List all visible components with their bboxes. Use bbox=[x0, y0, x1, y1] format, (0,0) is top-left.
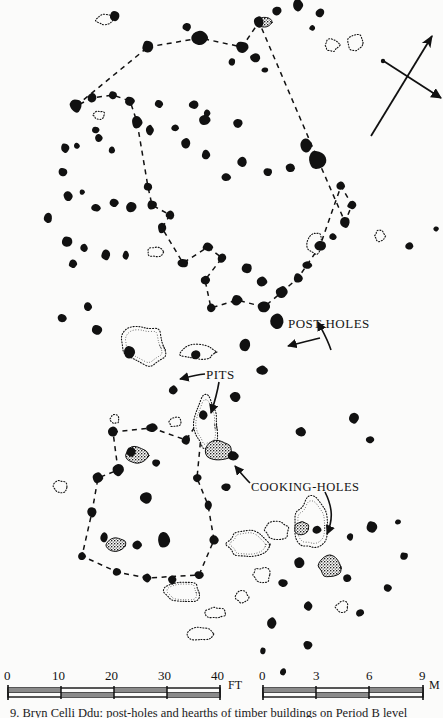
post-hole bbox=[261, 67, 268, 72]
post-hole bbox=[233, 119, 243, 128]
scale-feet-tick-20: 20 bbox=[105, 668, 118, 684]
post-hole bbox=[296, 427, 307, 436]
pit-outline bbox=[53, 481, 67, 493]
post-hole bbox=[80, 244, 88, 252]
post-hole bbox=[182, 435, 190, 444]
post-hole bbox=[267, 617, 277, 629]
post-hole bbox=[236, 42, 249, 53]
cooking-hole bbox=[106, 538, 126, 552]
post-hole bbox=[309, 151, 327, 169]
pit-outline bbox=[187, 627, 214, 640]
cooking-hole bbox=[318, 555, 341, 577]
pit-outline bbox=[253, 568, 270, 583]
post-hole bbox=[125, 97, 135, 106]
post-hole bbox=[366, 436, 375, 443]
post-hole bbox=[205, 501, 212, 510]
post-hole bbox=[101, 250, 110, 261]
post-hole bbox=[87, 507, 96, 517]
scale-metres-tick-3: 3 bbox=[313, 668, 320, 684]
post-hole bbox=[304, 601, 313, 610]
pit-outline bbox=[264, 521, 288, 539]
pit-outline bbox=[163, 582, 199, 601]
scale-feet-tick-0: 0 bbox=[4, 668, 11, 684]
post-hole bbox=[92, 325, 103, 335]
post-hole bbox=[367, 521, 378, 533]
post-hole bbox=[237, 157, 247, 167]
post-hole bbox=[189, 100, 199, 109]
post-hole bbox=[256, 366, 268, 375]
post-hole bbox=[263, 168, 272, 176]
north-arrow-crossbar bbox=[382, 60, 441, 98]
post-hole bbox=[181, 138, 190, 148]
post-hole bbox=[228, 451, 240, 460]
post-hole bbox=[201, 276, 211, 285]
north-arrow-crossbar-dot bbox=[381, 59, 385, 63]
post-hole bbox=[132, 116, 143, 129]
post-hole bbox=[302, 261, 312, 269]
post-hole bbox=[61, 143, 70, 153]
pit-outline bbox=[295, 496, 328, 548]
post-hole bbox=[400, 552, 408, 559]
post-hole bbox=[182, 23, 191, 31]
cooking-hole bbox=[205, 440, 231, 459]
post-hole bbox=[80, 189, 86, 194]
post-hole bbox=[62, 237, 73, 247]
post-hole bbox=[300, 138, 312, 152]
post-hole bbox=[152, 459, 160, 466]
post-hole bbox=[340, 217, 350, 228]
post-hole bbox=[146, 423, 158, 432]
post-hole bbox=[258, 301, 271, 312]
scale-bar-feet bbox=[8, 685, 220, 700]
post-holes-leader-left bbox=[288, 338, 320, 346]
post-hole bbox=[109, 91, 117, 99]
post-hole bbox=[158, 532, 170, 548]
pit-outline bbox=[235, 591, 249, 604]
post-hole bbox=[294, 557, 304, 568]
post-hole bbox=[347, 533, 353, 540]
pit-outline bbox=[205, 607, 226, 617]
post-hole bbox=[286, 164, 296, 172]
post-hole bbox=[44, 213, 52, 223]
post-hole bbox=[270, 313, 284, 329]
post-hole bbox=[257, 277, 268, 287]
post-hole bbox=[280, 668, 286, 675]
scale-metres-tick-6: 6 bbox=[366, 668, 373, 684]
post-hole bbox=[69, 259, 78, 268]
post-hole bbox=[146, 125, 154, 136]
post-hole bbox=[92, 127, 100, 134]
pit-outline bbox=[93, 111, 105, 119]
pits-leader-down bbox=[211, 382, 219, 413]
post-hole bbox=[74, 143, 80, 149]
post-hole bbox=[132, 540, 142, 549]
post-hole bbox=[100, 532, 108, 542]
scale-feet-unit: FT bbox=[228, 678, 242, 693]
post-hole bbox=[230, 392, 241, 402]
post-hole bbox=[199, 115, 211, 125]
pit-outline bbox=[226, 530, 270, 556]
cooking-hole bbox=[295, 522, 309, 535]
post-hole bbox=[142, 574, 152, 583]
post-hole bbox=[58, 314, 67, 322]
post-hole bbox=[239, 339, 250, 352]
pit-outline bbox=[148, 247, 164, 257]
scale-metres-tick-9: 9 bbox=[419, 668, 426, 684]
post-hole bbox=[395, 519, 401, 524]
post-hole bbox=[250, 53, 260, 62]
post-hole bbox=[329, 233, 337, 240]
pit-outline bbox=[325, 39, 340, 52]
post-hole bbox=[232, 295, 244, 306]
post-hole bbox=[293, 0, 304, 11]
pit-outline bbox=[348, 34, 363, 50]
post-hole bbox=[349, 413, 359, 424]
post-hole bbox=[202, 150, 211, 160]
post-hole bbox=[70, 99, 82, 112]
post-hole bbox=[343, 574, 351, 582]
pit-outline bbox=[335, 601, 348, 613]
post-hole bbox=[229, 58, 236, 65]
post-hole bbox=[171, 125, 179, 132]
post-hole bbox=[347, 201, 356, 209]
site-plan-map bbox=[0, 0, 443, 718]
scale-feet-tick-30: 30 bbox=[158, 668, 171, 684]
post-hole bbox=[272, 7, 282, 16]
post-hole bbox=[303, 641, 312, 650]
